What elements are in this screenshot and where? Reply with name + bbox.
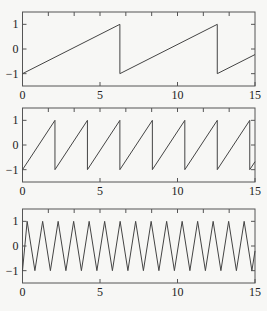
x-tick-label: 15 <box>249 184 261 198</box>
x-tick-label: 5 <box>97 88 103 102</box>
plot-frame <box>23 108 256 182</box>
plot-frame <box>23 12 256 86</box>
y-tick-label: 0 <box>13 138 19 152</box>
x-tick-label: 10 <box>172 184 184 198</box>
x-tick-label: 5 <box>97 285 103 299</box>
y-tick-label: −1 <box>6 67 19 81</box>
y-tick-label: 0 <box>13 239 19 253</box>
y-tick-label: 1 <box>13 214 19 228</box>
y-tick-label: 1 <box>13 17 19 31</box>
subplot-sawtooth-slow: 05101510−1 <box>6 12 261 102</box>
x-tick-label: 10 <box>172 88 184 102</box>
waveform-line <box>23 120 256 169</box>
y-tick-label: 1 <box>13 113 19 127</box>
subplot-triangle: 05101510−1 <box>6 209 261 299</box>
plot-frame <box>23 209 256 283</box>
x-tick-label: 10 <box>172 285 184 299</box>
waveform-line <box>23 221 256 270</box>
y-tick-label: −1 <box>6 163 19 177</box>
x-tick-label: 15 <box>249 88 261 102</box>
figure: 05101510−1 05101510−1 05101510−1 <box>0 0 267 311</box>
subplot-sawtooth-fast: 05101510−1 <box>6 108 261 198</box>
waveform-line <box>23 24 256 73</box>
x-tick-label: 15 <box>249 285 261 299</box>
x-tick-label: 0 <box>20 88 26 102</box>
x-tick-label: 0 <box>20 285 26 299</box>
x-tick-label: 0 <box>20 184 26 198</box>
y-tick-label: 0 <box>13 42 19 56</box>
y-tick-label: −1 <box>6 264 19 278</box>
x-tick-label: 5 <box>97 184 103 198</box>
